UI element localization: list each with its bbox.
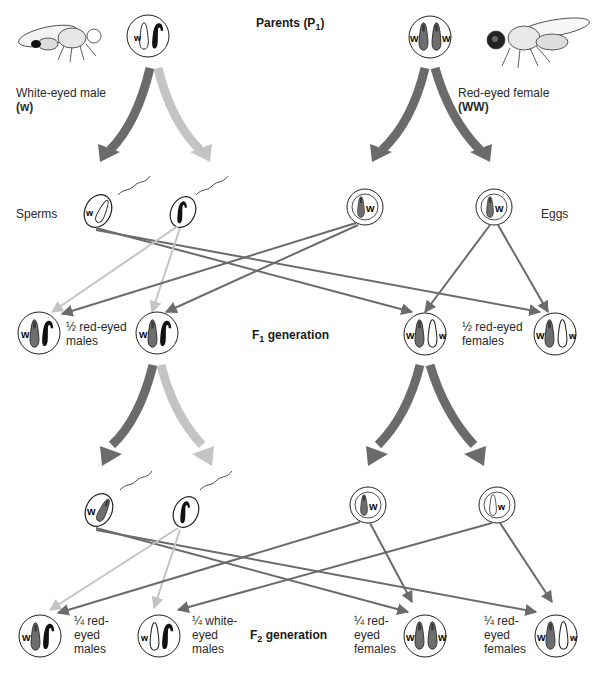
svg-text:W: W <box>442 34 451 44</box>
white-eyed-male-label: White-eyed male (w) <box>16 72 106 114</box>
sperms-label: Sperms <box>16 207 57 221</box>
f2-red-eyed-females-label-2: ¼ red- eyed females <box>484 614 526 656</box>
f1-male-to-x-sperm-arrow <box>112 365 153 445</box>
f1-heading-rest: generation <box>264 328 329 342</box>
p1-male-to-y-sperm-arrow <box>158 68 200 150</box>
f2-white-eyed-males-label: ¼ white- eyed males <box>192 614 237 656</box>
white-eyed-male-fly-illustration <box>17 21 101 62</box>
svg-text:W: W <box>438 633 447 643</box>
svg-text:W: W <box>21 330 30 340</box>
f1-female-1-genotype: W w <box>404 313 447 355</box>
parents-heading-text: Parents <box>256 16 300 30</box>
f1-sperm-x-red: W <box>80 471 152 531</box>
f1-female-2-genotype: W w <box>534 313 577 355</box>
p1-egg-1: W <box>347 189 383 225</box>
svg-text:W: W <box>369 502 378 512</box>
svg-text:w: w <box>497 502 506 512</box>
red-eyed-female-fly-illustration <box>487 14 591 68</box>
svg-text:W: W <box>495 204 504 214</box>
svg-text:w: w <box>85 208 94 218</box>
parents-heading-close: ) <box>320 16 324 30</box>
f1-females-fraction-label: ½ red-eyed females <box>462 320 523 348</box>
f2-generation-heading: F2 generation <box>250 628 327 644</box>
p1-sperm-x-white: w <box>79 176 150 232</box>
f1-to-f2-crosses <box>50 522 552 613</box>
f1-male-2-genotype: W <box>136 312 178 354</box>
f1-egg-white: w <box>479 487 515 523</box>
svg-text:W: W <box>406 331 415 341</box>
f1-male-1-genotype: W <box>18 312 60 354</box>
svg-text:w: w <box>568 331 577 341</box>
f2-red-eyed-females-label-1: ¼ red- eyed females <box>354 614 396 656</box>
inheritance-diagram: w W W w W W <box>0 0 601 673</box>
f2-red-eyed-male-genotype: W <box>19 615 61 657</box>
p1-female-genotype: W W <box>409 16 451 58</box>
p1-sperm-y <box>165 176 228 232</box>
svg-text:w: w <box>438 331 447 341</box>
svg-text:W: W <box>139 330 148 340</box>
p1-to-f1-crosses <box>52 223 548 314</box>
f1-egg-red: W <box>350 487 386 523</box>
f1-males-fraction-label: ½ red-eyed males <box>66 320 127 348</box>
svg-text:W: W <box>22 633 31 643</box>
parents-heading: Parents (P1) <box>256 16 324 32</box>
svg-text:W: W <box>366 204 375 214</box>
f2-homozygous-red-female-genotype: W W <box>404 615 447 657</box>
f2-heading-rest: generation <box>262 628 327 642</box>
male-genotype-text: (w) <box>16 100 33 114</box>
f2-white-eyed-male-genotype: w <box>138 615 180 657</box>
red-eyed-female-label: Red-eyed female (WW) <box>458 72 549 114</box>
f1-generation-heading: F1 generation <box>252 328 329 344</box>
svg-text:W: W <box>406 633 415 643</box>
f1-female-to-egg1-arrow <box>378 365 420 445</box>
female-label-text: Red-eyed female <box>458 86 549 100</box>
f1-sperm-y <box>168 471 232 532</box>
svg-text:w: w <box>140 633 149 643</box>
p1-male-to-x-sperm-arrow <box>110 68 150 150</box>
svg-text:w: w <box>569 633 578 643</box>
f2-heterozygous-red-female-genotype: W w <box>535 615 578 657</box>
svg-text:W: W <box>410 34 419 44</box>
f1-female-to-egg2-arrow <box>430 365 474 445</box>
eggs-label: Eggs <box>541 207 568 221</box>
svg-text:w: w <box>133 33 142 43</box>
svg-text:W: W <box>87 507 96 517</box>
female-genotype-text: (WW) <box>458 100 489 114</box>
parents-heading-paren: (P <box>303 16 315 30</box>
svg-text:W: W <box>536 331 545 341</box>
svg-text:W: W <box>537 633 546 643</box>
p1-female-to-egg1-arrow <box>382 68 425 150</box>
p1-egg-2: W <box>476 189 512 225</box>
f1-male-to-y-sperm-arrow <box>161 365 202 445</box>
male-label-text: White-eyed male <box>16 86 106 100</box>
f2-red-eyed-males-label: ¼ red- eyed males <box>74 614 109 656</box>
p1-male-genotype: w <box>127 15 169 57</box>
